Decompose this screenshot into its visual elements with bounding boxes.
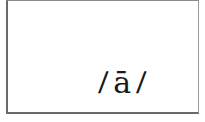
phoneme-card: /ā/ [6, 0, 199, 114]
right-slash: / [135, 65, 147, 101]
left-slash: / [97, 65, 109, 101]
phoneme-symbol: ā [113, 65, 131, 101]
phoneme-display: /ā/ [8, 29, 198, 122]
